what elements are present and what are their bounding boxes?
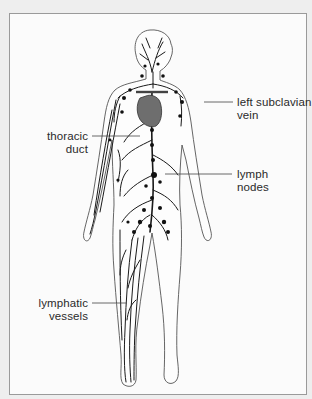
lymphatic-system-figure [0, 0, 312, 399]
body-outline [84, 30, 212, 386]
label-lymph-nodes: lymph nodes [237, 168, 269, 193]
label-line: vessels [28, 310, 88, 323]
label-line: vein [237, 109, 311, 122]
label-lymphatic-vessels: lymphatic vessels [28, 297, 88, 322]
label-line: lymph [237, 168, 269, 181]
label-left-subclavian-vein: left subclavian vein [237, 96, 311, 121]
label-line: thoracic [30, 130, 88, 143]
label-line: duct [30, 143, 88, 156]
label-line: nodes [237, 181, 269, 194]
label-line: left subclavian [237, 96, 311, 109]
label-line: lymphatic [28, 297, 88, 310]
label-thoracic-duct: thoracic duct [30, 130, 88, 155]
